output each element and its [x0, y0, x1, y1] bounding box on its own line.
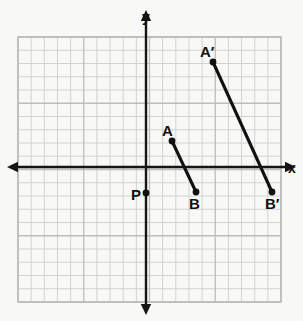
point-dot-P	[143, 190, 150, 197]
x-axis-label: x	[288, 160, 296, 176]
point-label-A: A	[162, 122, 173, 139]
coordinate-plane-svg: x y ABA′B′P	[0, 0, 303, 321]
point-label-B: B	[189, 195, 200, 212]
point-label-A_prime: A′	[200, 43, 215, 60]
point-label-P: P	[131, 186, 141, 203]
point-label-B_prime: B′	[265, 195, 280, 212]
y-axis-label: y	[142, 9, 150, 25]
coordinate-plane-figure: x y ABA′B′P	[0, 0, 303, 321]
